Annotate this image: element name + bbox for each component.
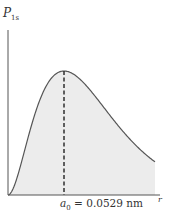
probability-density-chart [0,0,169,213]
x-axis-label: r [158,195,162,204]
bohr-radius-annotation: a0 = 0.0529 nm [60,197,143,212]
area-fill [8,71,155,195]
y-axis-label: P1s [3,6,19,22]
